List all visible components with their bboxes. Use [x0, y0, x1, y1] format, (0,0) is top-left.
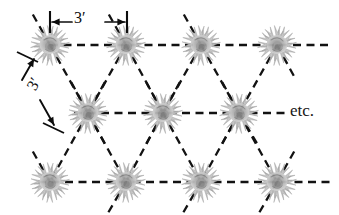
plant-marker [144, 94, 183, 134]
triangular-lattice-figure [0, 0, 339, 215]
plant-marker [258, 163, 297, 203]
horizontal-spacing-label: 3′ [74, 10, 86, 26]
figure-canvas: 3′ 3′ etc. [0, 0, 339, 215]
diagonal-dimension-arrow-lower [40, 100, 54, 125]
plant-marker [258, 26, 297, 66]
plant-marker [31, 163, 70, 203]
diagonal-dimension-tick-upper [17, 52, 38, 62]
continuation-label: etc. [290, 102, 314, 119]
horizontal-dimension-arrow-left [52, 19, 72, 26]
horizontal-dimension-arrow-right [105, 19, 125, 26]
